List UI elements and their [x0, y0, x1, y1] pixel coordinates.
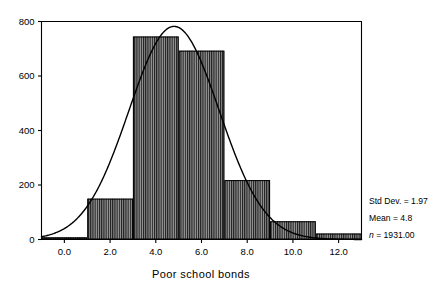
x-tick-label: 0.0	[58, 246, 71, 257]
x-axis-title: Poor school bonds	[152, 268, 250, 280]
chart-canvas: 0200400600800 0.02.04.06.08.010.012.0 Po…	[0, 0, 445, 296]
x-tick-label: 12.0	[329, 246, 348, 257]
std-dev-annotation: Std Dev. = 1.97	[369, 196, 428, 206]
y-tick-label: 0	[29, 234, 34, 245]
n-annotation: n = 1931.00	[369, 230, 415, 240]
mean-annotation: Mean = 4.8	[369, 213, 412, 223]
histogram-figure: 0200400600800 0.02.04.06.08.010.012.0 Po…	[0, 0, 445, 296]
x-tick-label: 6.0	[195, 246, 208, 257]
histogram-bar	[87, 199, 133, 240]
x-tick-label: 10.0	[284, 246, 303, 257]
histogram-bar	[133, 36, 179, 239]
y-tick-label: 200	[19, 179, 35, 190]
x-tick-label: 4.0	[149, 246, 162, 257]
x-tick-label: 2.0	[103, 246, 116, 257]
x-tick-label: 8.0	[241, 246, 254, 257]
histogram-bar	[179, 51, 225, 240]
y-tick-label: 800	[19, 16, 35, 27]
y-tick-label: 400	[19, 125, 35, 136]
n-value: = 1931.00	[374, 230, 415, 240]
y-tick-label: 600	[19, 70, 35, 81]
